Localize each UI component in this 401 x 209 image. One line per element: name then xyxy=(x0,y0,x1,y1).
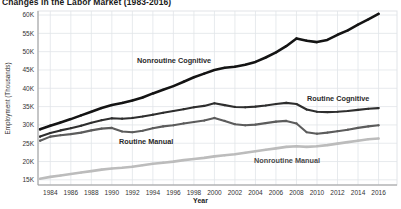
data-point xyxy=(172,110,174,112)
data-point xyxy=(90,129,92,131)
data-point xyxy=(295,37,297,39)
series-label-nonroutine-manual: Nonroutine Manual xyxy=(254,156,320,165)
y-tick-label: 15K xyxy=(22,176,34,183)
data-point xyxy=(306,108,308,110)
data-point xyxy=(121,167,123,169)
data-point xyxy=(316,41,318,43)
data-point xyxy=(285,45,287,47)
data-point xyxy=(244,152,246,154)
x-tick-label: 2002 xyxy=(228,189,243,196)
data-point xyxy=(377,107,379,109)
chart-title: Changes in the Labor Market (1983-2016) xyxy=(2,0,171,7)
x-tick-label: 2000 xyxy=(207,189,222,196)
y-tick-label: 45K xyxy=(22,66,34,73)
data-point xyxy=(347,129,349,131)
data-point xyxy=(172,124,174,126)
data-point xyxy=(265,149,267,151)
data-point xyxy=(172,85,174,87)
data-point xyxy=(377,137,379,139)
plot-canvas: 15K20K25K30K35K40K45K50K55K60K1984198619… xyxy=(0,0,401,209)
x-tick-label: 1994 xyxy=(146,189,161,196)
data-point xyxy=(131,117,133,119)
data-point xyxy=(326,39,328,41)
data-point xyxy=(90,111,92,113)
x-tick-label: 2010 xyxy=(310,189,325,196)
data-point xyxy=(183,81,185,83)
data-point xyxy=(172,160,174,162)
y-tick-label: 55K xyxy=(22,30,34,37)
data-point xyxy=(275,51,277,53)
data-point xyxy=(39,128,41,130)
data-point xyxy=(213,69,215,71)
data-point xyxy=(316,111,318,113)
data-point xyxy=(90,170,92,172)
data-point xyxy=(70,133,72,135)
data-point xyxy=(367,125,369,127)
data-point xyxy=(265,122,267,124)
y-tick-label: 25K xyxy=(22,140,34,147)
data-point xyxy=(59,121,61,123)
data-point xyxy=(367,18,369,20)
x-tick-label: 1992 xyxy=(125,189,140,196)
data-point xyxy=(306,131,308,133)
data-point xyxy=(142,115,144,117)
data-point xyxy=(285,146,287,148)
data-point xyxy=(254,123,256,125)
data-point xyxy=(367,108,369,110)
data-point xyxy=(347,110,349,112)
data-point xyxy=(49,176,51,178)
data-point xyxy=(131,166,133,168)
data-point xyxy=(100,119,102,121)
data-point xyxy=(295,103,297,105)
data-point xyxy=(326,132,328,134)
series-label-routine-manual: Routine Manual xyxy=(119,137,173,146)
data-point xyxy=(193,106,195,108)
data-point xyxy=(70,127,72,129)
data-point xyxy=(224,67,226,69)
data-point xyxy=(213,102,215,104)
data-point xyxy=(275,103,277,105)
y-tick-label: 20K xyxy=(22,158,34,165)
data-point xyxy=(142,164,144,166)
data-point xyxy=(357,127,359,129)
y-tick-label: 35K xyxy=(22,103,34,110)
data-point xyxy=(265,56,267,58)
data-point xyxy=(275,121,277,123)
data-point xyxy=(121,102,123,104)
y-axis-title: Employment (Thousands) xyxy=(4,59,11,139)
data-point xyxy=(80,125,82,127)
data-point xyxy=(224,104,226,106)
data-point xyxy=(131,131,133,133)
data-point xyxy=(316,145,318,147)
data-point xyxy=(367,138,369,140)
data-point xyxy=(357,109,359,111)
data-point xyxy=(121,118,123,120)
y-tick-label: 30K xyxy=(22,121,34,128)
data-point xyxy=(244,124,246,126)
x-tick-label: 1986 xyxy=(64,189,79,196)
x-tick-label: 1990 xyxy=(105,189,120,196)
data-point xyxy=(59,134,61,136)
data-point xyxy=(162,89,164,91)
y-tick-label: 50K xyxy=(22,48,34,55)
data-point xyxy=(203,157,205,159)
data-point xyxy=(336,143,338,145)
data-point xyxy=(213,117,215,119)
data-point xyxy=(275,147,277,149)
data-point xyxy=(377,13,379,15)
data-point xyxy=(357,23,359,25)
data-point xyxy=(336,130,338,132)
data-point xyxy=(142,96,144,98)
data-point xyxy=(203,105,205,107)
x-tick-label: 1984 xyxy=(43,189,58,196)
data-point xyxy=(59,129,61,131)
data-point xyxy=(183,108,185,110)
data-point xyxy=(244,64,246,66)
data-point xyxy=(111,127,113,129)
data-point xyxy=(254,150,256,152)
data-point xyxy=(347,141,349,143)
data-point xyxy=(234,153,236,155)
data-point xyxy=(326,111,328,113)
x-tick-label: 2004 xyxy=(248,189,263,196)
data-point xyxy=(285,102,287,104)
